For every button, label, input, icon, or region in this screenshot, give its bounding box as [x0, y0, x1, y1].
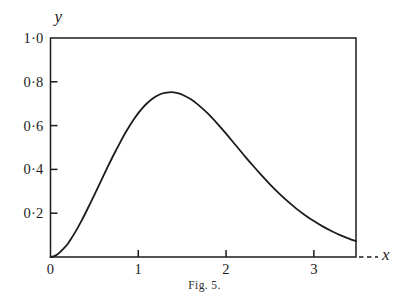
- x-axis-tick-label: 2: [222, 262, 229, 277]
- axis-frame: [51, 38, 357, 257]
- frame-lines: [51, 38, 357, 257]
- figure-container: 1·00·80·60·40·2 0123 y x Fig. 5.: [0, 0, 409, 302]
- y-axis-tick-label: 0·2: [24, 206, 44, 221]
- x-axis-tick-label: 0: [47, 262, 54, 277]
- x-axis-label: x: [382, 246, 390, 263]
- y-axis-tick-label: 0·6: [24, 118, 44, 133]
- data-curve: [51, 92, 357, 257]
- plot-canvas: [0, 0, 409, 302]
- y-axis-tick-label: 0·4: [24, 162, 44, 177]
- y-axis-ticks: [51, 82, 58, 213]
- x-axis-tick-label: 3: [310, 262, 317, 277]
- x-axis-ticks: [138, 250, 314, 257]
- y-axis-tick-label: 1·0: [24, 31, 44, 46]
- x-axis-tick-label: 1: [135, 262, 142, 277]
- y-axis-tick-label: 0·8: [24, 75, 44, 90]
- y-axis-label: y: [55, 8, 63, 25]
- figure-caption: Fig. 5.: [0, 279, 409, 291]
